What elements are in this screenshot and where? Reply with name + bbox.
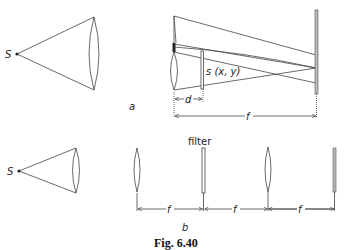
optics-diagram: S a s (x, y) d f xyxy=(0,0,347,250)
filter-label: filter xyxy=(188,136,212,147)
figure-caption: Fig. 6.40 xyxy=(154,236,198,250)
dimension-d-label: d xyxy=(185,94,192,105)
screen-b xyxy=(333,148,336,192)
transform-lens-a xyxy=(171,52,178,90)
panel-b: S filter f f f b xyxy=(7,136,336,233)
object-transparency xyxy=(201,51,204,89)
source-label-a: S xyxy=(5,49,12,60)
transform-lens-2 xyxy=(265,147,271,192)
screen-a xyxy=(315,10,318,94)
source-label-b: S xyxy=(7,166,14,177)
panel-a: S a s (x, y) d f xyxy=(5,10,318,122)
panel-b-label: b xyxy=(182,222,188,233)
panel-a-label: a xyxy=(129,101,135,112)
spatial-filter xyxy=(202,148,205,193)
collimating-lens-a xyxy=(89,17,99,90)
object-label: s (x, y) xyxy=(206,66,240,77)
collimating-lens-b xyxy=(73,148,80,193)
transform-lens-1 xyxy=(134,148,140,192)
